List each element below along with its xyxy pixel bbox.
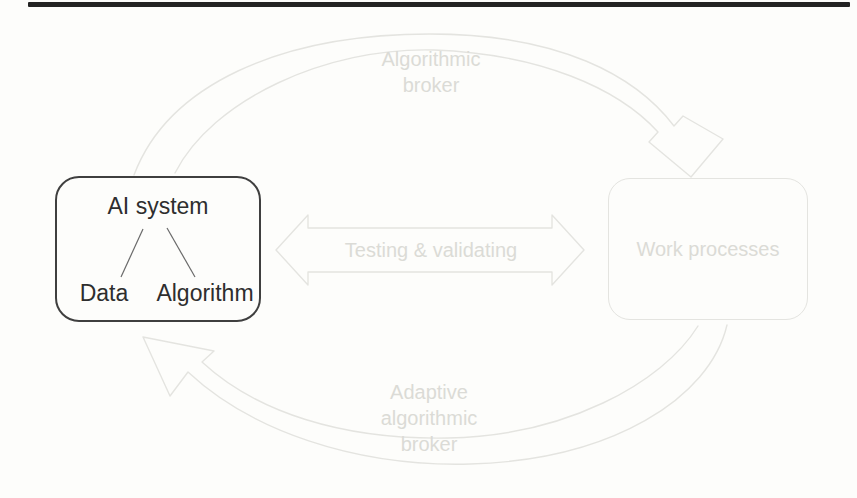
testing-validating-label: Testing & validating bbox=[345, 237, 517, 263]
ai-system-title: AI system bbox=[57, 193, 259, 220]
book-page: AI system Data Algorithm Work processes … bbox=[0, 0, 857, 498]
algorithm-node-label: Algorithm bbox=[156, 280, 253, 307]
algorithmic-broker-label: Algorithmic broker bbox=[365, 46, 497, 98]
data-node-label: Data bbox=[80, 280, 129, 307]
adaptive-broker-label: Adaptive algorithmic broker bbox=[363, 379, 495, 457]
ai-system-box: AI system Data Algorithm bbox=[55, 176, 261, 322]
work-processes-box: Work processes bbox=[608, 178, 808, 320]
work-processes-label: Work processes bbox=[636, 238, 779, 261]
